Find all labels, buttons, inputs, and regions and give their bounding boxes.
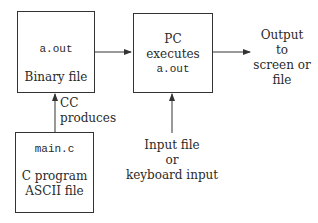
source-label1: C program [16, 169, 93, 183]
pc-code: a.out [134, 62, 212, 76]
input-line1: Input file [122, 138, 222, 152]
pc-box: PC executes a.out [133, 13, 213, 93]
pc-line2: executes [134, 47, 212, 61]
source-file-box: main.c C program ASCII file [15, 132, 94, 213]
binary-file-box: a.out Binary file [17, 11, 95, 93]
input-line2: or [122, 153, 222, 167]
source-code: main.c [16, 142, 93, 156]
pc-line1: PC [134, 32, 212, 46]
binary-label: Binary file [18, 70, 94, 84]
output-line4: file [250, 73, 314, 87]
binary-code: a.out [18, 42, 94, 56]
input-line3: keyboard input [117, 168, 227, 182]
source-label2: ASCII file [16, 184, 93, 198]
output-line3: screen or [250, 58, 314, 72]
cc-label-line2: produces [60, 111, 116, 125]
output-line1: Output [250, 28, 314, 42]
output-line2: to [250, 43, 314, 57]
cc-label-line1: CC [60, 96, 78, 110]
